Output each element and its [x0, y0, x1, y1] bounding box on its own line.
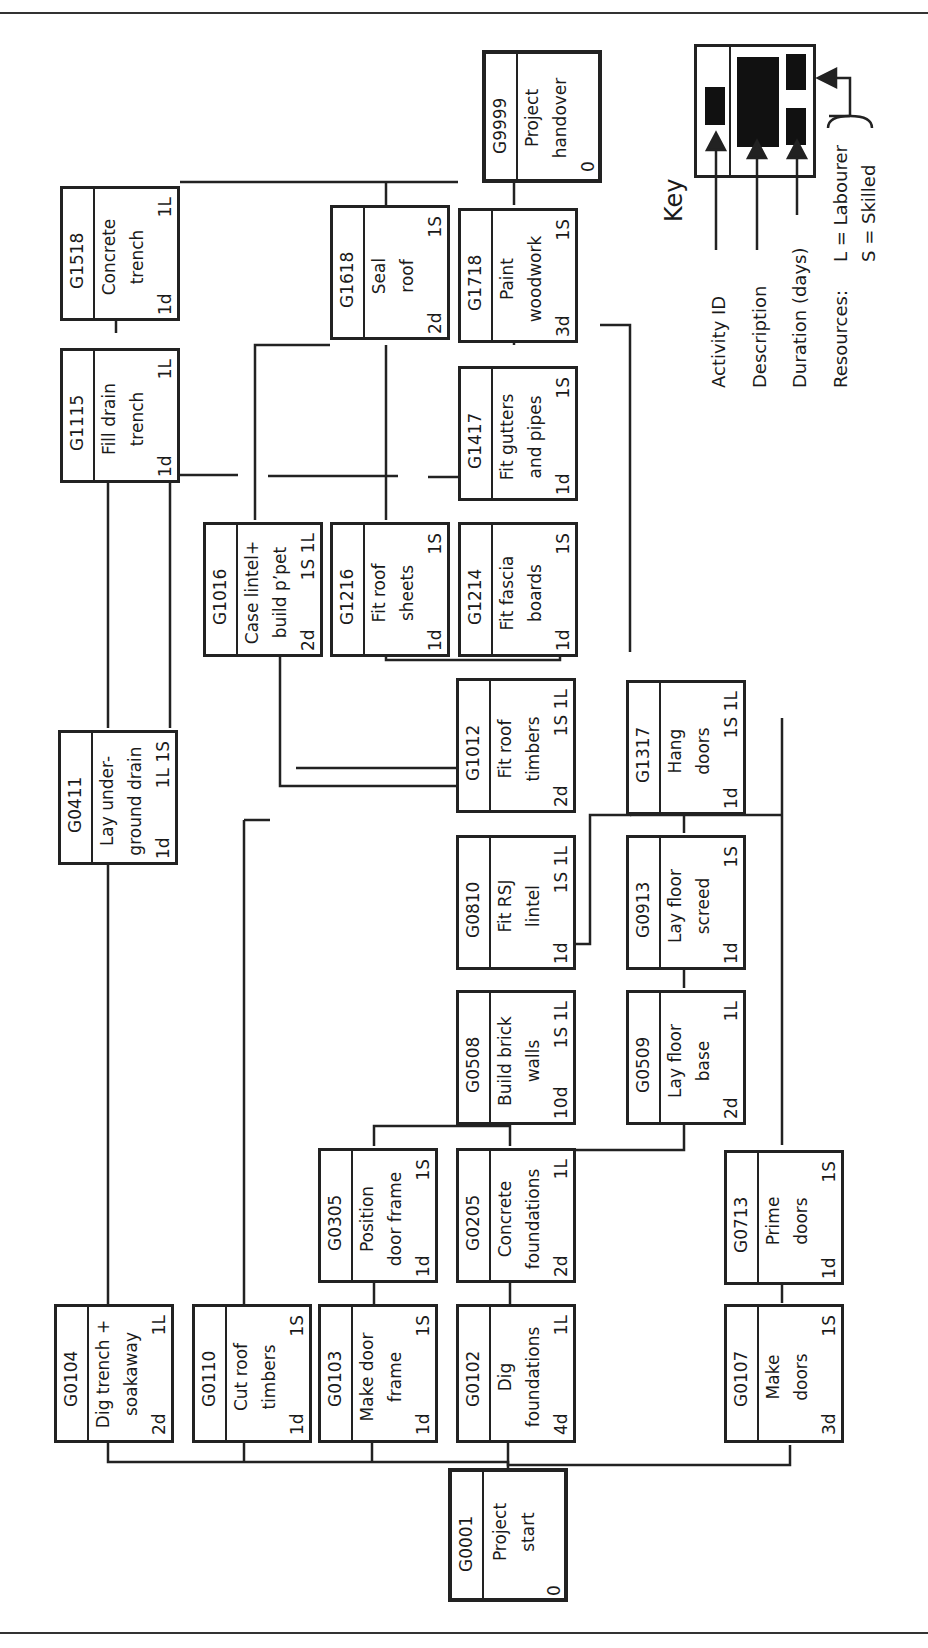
key-label-description: Description — [749, 285, 770, 388]
key-label-resources: Resources: — [830, 290, 851, 388]
key-label-skilled: S = Skilled — [858, 165, 879, 262]
key-title: Key — [660, 178, 688, 222]
key-label-activity-id: Activity ID — [708, 296, 729, 388]
key-label-duration: Duration (days) — [789, 248, 810, 388]
key-label-labourer: L = Labourer — [830, 145, 851, 262]
